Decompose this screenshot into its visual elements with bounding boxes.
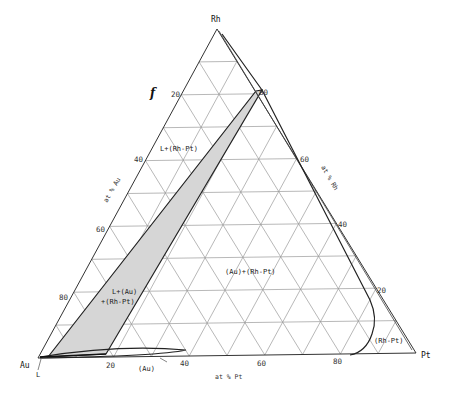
grid-line <box>163 128 302 355</box>
bottom-tick-60: 60 <box>257 359 267 368</box>
grid-line <box>163 126 276 128</box>
ternary-diagram: Rh Au Pt f 20 40 60 80 80 60 40 20 20 40… <box>0 0 451 401</box>
right-tick-20: 20 <box>377 286 387 295</box>
region-label-au: (Au) <box>138 365 155 373</box>
region-label-liquid: L <box>36 371 40 379</box>
left-axis-title: at % Au <box>102 176 123 204</box>
grid-line <box>128 191 317 194</box>
region-label-l-rhpt: L+(Rh-Pt) <box>160 145 198 153</box>
au-label-leader <box>160 358 167 362</box>
grid-line <box>199 61 237 62</box>
region-label-plus-rhpt: +(Rh-Pt) <box>101 298 135 306</box>
vertex-au-label: Au <box>20 361 30 370</box>
left-tick-80: 80 <box>59 293 69 302</box>
region-label-au-rhpt: (Au)+(Rh-Pt) <box>225 268 276 276</box>
bottom-axis-title: at % Pt <box>215 373 242 381</box>
bottom-tick-80: 80 <box>333 357 343 366</box>
vertex-rh-label: Rh <box>211 15 221 24</box>
bottom-tick-20: 20 <box>106 361 116 370</box>
grid-line <box>199 62 378 354</box>
rhpt-solidus-curve <box>222 34 375 355</box>
right-axis-title: at % Rh <box>319 164 340 192</box>
right-tick-60: 60 <box>300 155 310 164</box>
shaded-region-l-au-rhpt <box>48 90 262 357</box>
vertex-pt-label: Pt <box>421 351 431 360</box>
right-tick-80: 80 <box>259 88 269 97</box>
region-label-rhpt: (Rh-Pt) <box>374 337 404 345</box>
grid-line <box>181 94 257 95</box>
figure-label: f <box>149 86 157 100</box>
bottom-tick-40: 40 <box>180 359 190 368</box>
left-tick-20: 20 <box>171 90 181 99</box>
liquid-label-leader <box>38 359 41 370</box>
right-tick-40: 40 <box>338 220 348 229</box>
left-tick-40: 40 <box>134 155 144 164</box>
region-label-l-au: L+(Au) <box>112 288 137 296</box>
rh-pt-edge-inner <box>219 31 412 350</box>
left-tick-60: 60 <box>96 225 106 234</box>
grid-line <box>110 223 337 226</box>
